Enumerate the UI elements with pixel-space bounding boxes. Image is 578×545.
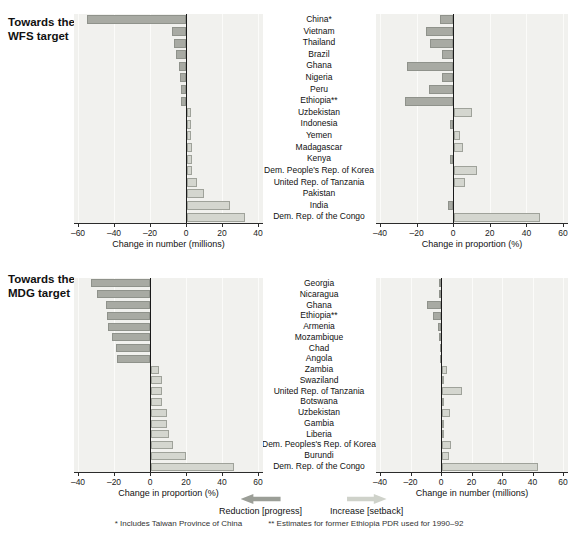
gridline [380,278,381,472]
wfs-target-title-line2: WFS target [8,29,75,43]
axis-tick-label: –60 [71,228,85,238]
country-label: Brazil [262,49,376,61]
gridline [502,278,503,472]
gridline [526,14,527,223]
country-label: Burundi [262,450,376,461]
country-label: Vietnam [262,26,376,38]
mdg-target-title-line1: Towards the [8,272,75,286]
x-axis-line [74,223,263,224]
reduction-bar [108,323,150,331]
country-label: Botswana [262,396,376,407]
axis-tick-label: 20 [467,477,476,487]
country-label: India [262,200,376,212]
reduction-bar [179,62,186,71]
axis-label: Change in number (millions) [376,488,568,498]
reduction-bar [174,39,186,48]
increase-bar [187,131,191,140]
increase-bar [442,387,462,395]
gridline [114,14,115,223]
reduction-bar [430,39,453,48]
country-label: Mozambique [262,332,376,343]
legend: Reduction [progress] Increase [setback] [219,494,403,516]
axis-tick-label: 0 [184,228,189,238]
increase-bar [442,409,450,417]
increase-bar [454,166,477,175]
reduction-bar [117,355,150,363]
gridline [533,278,534,472]
x-axis-line [376,472,568,473]
reduction-bar [97,290,150,298]
axis-tick-label: –20 [143,228,157,238]
increase-arrow-icon [347,494,387,504]
country-label: Dem. Peoples's Rep. of Korea [262,439,376,450]
increase-bar [442,463,538,471]
gridline [472,278,473,472]
reduction-bar [440,15,453,24]
increase-bar [187,189,204,198]
country-label: Swaziland [262,375,376,386]
increase-bar [151,420,167,428]
axis-tick-label: 20 [181,477,190,487]
gridline [78,14,79,223]
increase-bar [187,178,197,187]
footnotes: * Includes Taiwan Province of China ** E… [0,519,578,528]
axis-tick-label: 60 [253,477,262,487]
increase-bar [151,452,186,460]
axis-tick-label: 40 [497,477,506,487]
increase-bar [442,420,444,428]
increase-bar [454,213,540,222]
wfs-target-title: Towards the WFS target [8,15,75,43]
country-label: Uzbekistan [262,407,376,418]
country-label: China* [262,14,376,26]
country-label: Madagascar [262,142,376,154]
gridline [222,14,223,223]
legend-item-reduction: Reduction [progress] [219,494,302,516]
increase-bar [151,463,234,471]
axis-label: Change in proportion (%) [376,239,568,249]
country-label: Pakistan [262,188,376,200]
reduction-bar [426,27,453,36]
country-label: Chad [262,343,376,354]
axis-tick-label: –40 [373,477,387,487]
gridline [380,14,381,223]
country-label: Thailand [262,37,376,49]
axis-tick-label: –40 [71,477,85,487]
country-label: Dem. Rep. of the Congo [262,211,376,223]
axis-tick-label: 40 [253,228,262,238]
increase-bar [151,376,162,384]
mdg-panel-right: –40–20020404060Change in number (million… [376,278,568,472]
country-label: Uzbekistan [262,107,376,119]
gridline [258,278,259,472]
x-axis-line [74,472,263,473]
reduction-bar [112,333,150,341]
gridline [78,278,79,472]
wfs-target-title-line1: Towards the [8,15,75,29]
zero-axis-line [441,278,442,472]
country-label: Kenya [262,153,376,165]
legend-label-reduction: Reduction [progress] [219,506,302,516]
wfs-panel-right: –40–200204060Change in proportion (%) [376,14,568,223]
increase-bar [454,131,459,140]
reduction-bar [91,279,150,287]
reduction-bar [107,312,150,320]
axis-tick-label: –40 [373,228,387,238]
country-label: Nigeria [262,72,376,84]
zero-axis-line [453,14,454,223]
reduction-bar [427,301,441,309]
gridline [490,14,491,223]
country-label: Peru [262,84,376,96]
gridline [150,14,151,223]
increase-bar [151,441,173,449]
increase-bar [187,201,230,210]
increase-bar [187,108,191,117]
increase-bar [151,366,159,374]
increase-bar [442,452,449,460]
mdg-target-title: Towards the MDG target [8,272,75,300]
country-label: United Rep. of Tanzania [262,177,376,189]
reduction-bar [116,344,150,352]
country-label: Georgia [262,278,376,289]
mdg-panel-left: –40–200204060Change in proportion (%) [74,278,263,472]
country-label: Dem. People's Rep. of Korea [262,165,376,177]
gridline [417,14,418,223]
footnote-asterisk: * Includes Taiwan Province of China [115,519,242,528]
